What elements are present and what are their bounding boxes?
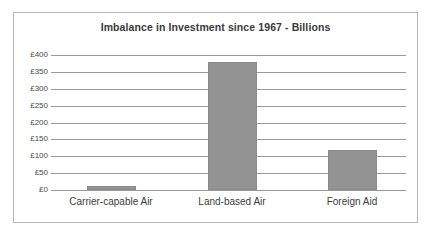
y-tick-label: £200 (14, 119, 48, 127)
y-tick-label: £250 (14, 102, 48, 110)
y-tick-label: £50 (14, 169, 48, 177)
x-tick-label-land-based-air: Land-based Air (172, 195, 292, 208)
axis-baseline (51, 190, 406, 191)
y-tick-label: £150 (14, 135, 48, 143)
gridline (51, 55, 406, 56)
y-tick-label: £100 (14, 152, 48, 160)
x-axis-labels: Carrier-capable Air Land-based Air Forei… (51, 195, 406, 215)
y-tick-label: £400 (14, 51, 48, 59)
y-tick-label: £0 (14, 186, 48, 194)
x-tick-label-carrier-capable-air: Carrier-capable Air (51, 195, 171, 208)
chart-frame: Imbalance in Investment since 1967 - Bil… (13, 12, 418, 223)
bar-foreign-aid[interactable] (328, 150, 377, 190)
x-tick-label-foreign-aid: Foreign Aid (292, 195, 412, 208)
plot-area (51, 55, 406, 190)
y-tick-label: £350 (14, 68, 48, 76)
y-tick-label: £300 (14, 85, 48, 93)
chart-title: Imbalance in Investment since 1967 - Bil… (14, 21, 417, 33)
y-axis: £400 £350 £300 £250 £200 £150 £100 £50 £… (14, 55, 48, 190)
bar-carrier-capable-air[interactable] (87, 186, 136, 190)
bar-land-based-air[interactable] (208, 62, 257, 190)
